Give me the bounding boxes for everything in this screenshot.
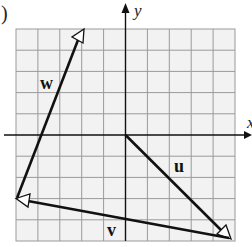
y-axis-arrow-icon <box>122 3 130 13</box>
panel-label: ) <box>1 2 8 25</box>
y-axis-label: y <box>132 1 142 20</box>
vector-u-label: u <box>174 156 184 176</box>
vector-diagram: ) y x u v <box>0 0 252 247</box>
x-axis-arrow-icon <box>244 131 252 139</box>
vector-v-label: v <box>107 220 116 240</box>
x-axis-label: x <box>246 113 252 132</box>
vector-w-label: w <box>40 73 53 93</box>
